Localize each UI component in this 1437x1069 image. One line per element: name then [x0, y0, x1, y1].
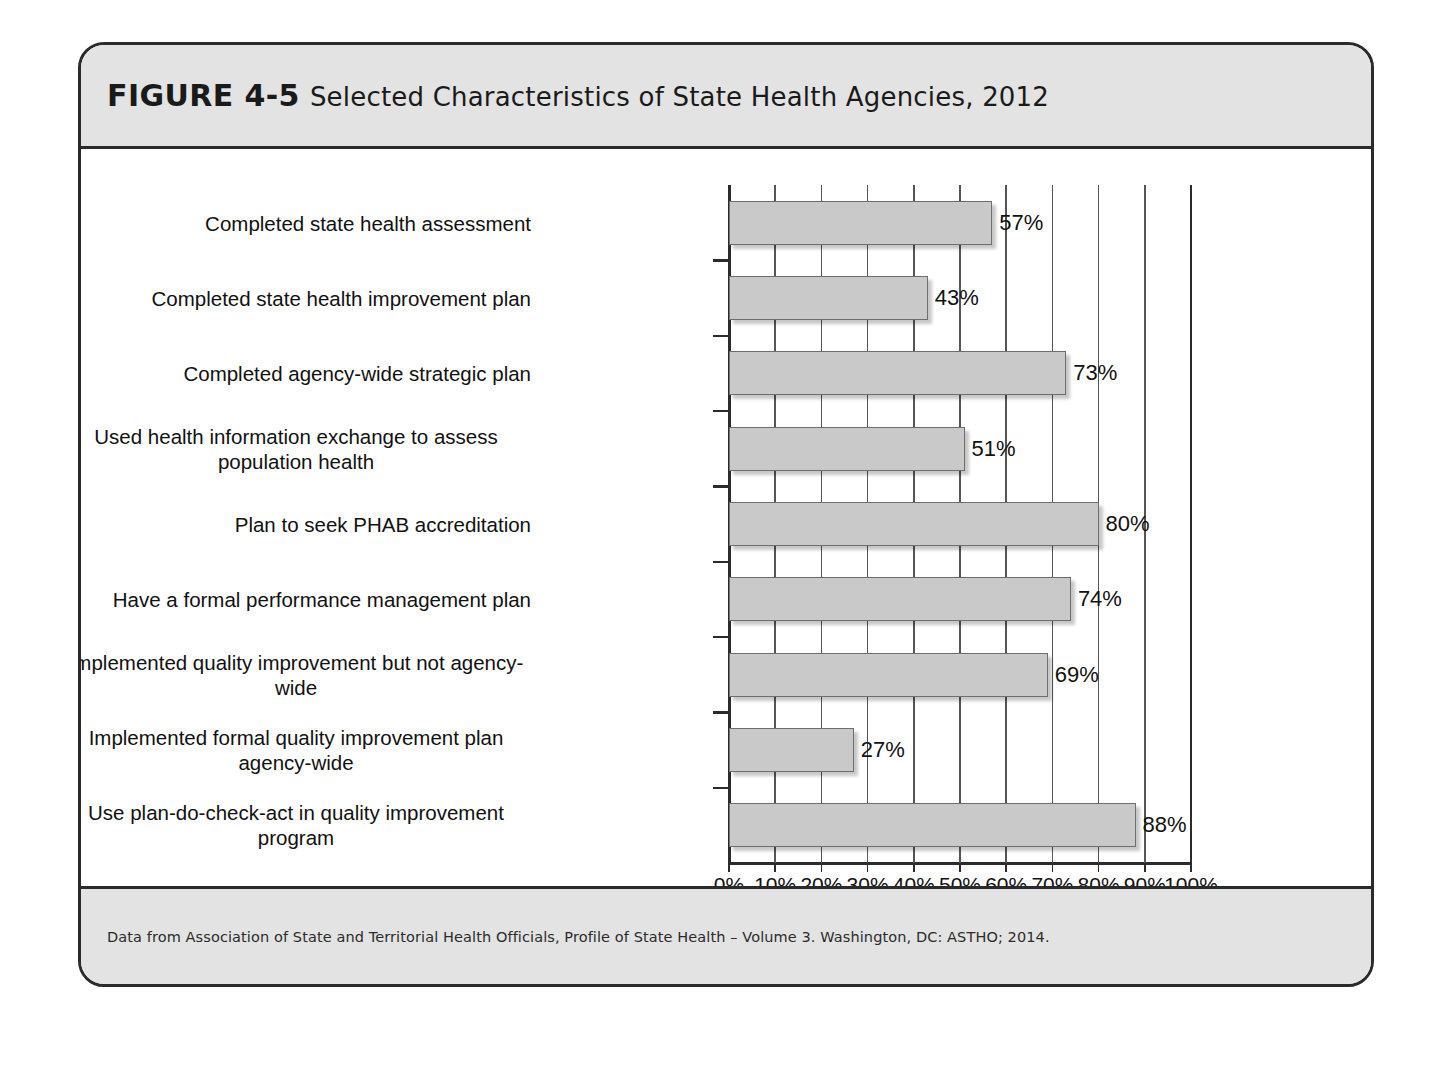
category-label-line: Use plan-do-check-act in quality improve… [78, 800, 531, 825]
x-axis-tick [959, 863, 961, 872]
x-axis-tick [1005, 863, 1007, 872]
category-label: Plan to seek PHAB accreditation [78, 512, 531, 537]
y-axis-tick [713, 335, 728, 337]
figure-number: FIGURE 4-5 [107, 78, 300, 113]
bar-value-label: 27% [854, 737, 905, 763]
bar-value-label: 57% [992, 210, 1043, 236]
bar[interactable] [729, 577, 1071, 621]
figure-header: FIGURE 4-5Selected Characteristics of St… [81, 45, 1371, 149]
category-label-line: program [78, 825, 531, 850]
bar-value-label: 74% [1071, 586, 1122, 612]
x-axis-tick [1052, 863, 1054, 872]
bar[interactable] [729, 201, 992, 245]
category-label-line: Implemented quality improvement but not … [78, 650, 531, 675]
bar-row: 27% [729, 728, 1191, 772]
category-label-line: Completed agency-wide strategic plan [78, 361, 531, 386]
category-label: Used health information exchange to asse… [78, 424, 531, 474]
category-label-line: Used health information exchange to asse… [78, 424, 531, 449]
category-label-line: wide [78, 675, 531, 700]
category-label-line: Implemented formal quality improvement p… [78, 725, 531, 750]
category-label: Implemented quality improvement but not … [78, 650, 531, 700]
category-label-line: Completed state health improvement plan [78, 286, 531, 311]
bar-value-label: 43% [928, 285, 979, 311]
category-label: Have a formal performance management pla… [78, 587, 531, 612]
category-label-line: Completed state health assessment [78, 210, 531, 235]
page-title: FIGURE 4-5Selected Characteristics of St… [107, 78, 1049, 113]
bar-value-label: 80% [1099, 511, 1150, 537]
category-label: Completed state health improvement plan [78, 286, 531, 311]
category-label: Completed state health assessment [78, 210, 531, 235]
figure-container: FIGURE 4-5Selected Characteristics of St… [78, 42, 1374, 987]
category-label: Implemented formal quality improvement p… [78, 725, 531, 775]
y-axis-tick [713, 259, 728, 261]
bar[interactable] [729, 276, 928, 320]
x-axis-tick [913, 863, 915, 872]
source-note: Data from Association of State and Terri… [107, 929, 1050, 945]
bar-row: 69% [729, 653, 1191, 697]
x-axis-tick [821, 863, 823, 872]
x-axis-tick [1190, 863, 1192, 872]
y-axis-tick [713, 410, 728, 412]
bar-row: 51% [729, 427, 1191, 471]
x-axis-tick [867, 863, 869, 872]
bar[interactable] [729, 803, 1136, 847]
bar-row: 73% [729, 351, 1191, 395]
x-axis-tick [1098, 863, 1100, 872]
bar-row: 80% [729, 502, 1191, 546]
category-label-line: agency-wide [78, 750, 531, 775]
category-label-line: Plan to seek PHAB accreditation [78, 512, 531, 537]
y-axis-tick [713, 485, 728, 487]
figure-title-text: Selected Characteristics of State Health… [310, 82, 1049, 112]
bar-value-label: 69% [1048, 662, 1099, 688]
category-label: Use plan-do-check-act in quality improve… [78, 800, 531, 850]
x-axis-tick [1144, 863, 1146, 872]
x-axis-tick [728, 863, 730, 872]
bar-row: 57% [729, 201, 1191, 245]
y-axis-tick [713, 711, 728, 713]
y-axis-tick [713, 787, 728, 789]
bar-chart: 0%10%20%30%40%50%60%70%80%90%100%57%Comp… [729, 185, 1191, 863]
category-label-line: Have a formal performance management pla… [78, 587, 531, 612]
chart-plot-area: 0%10%20%30%40%50%60%70%80%90%100%57%Comp… [81, 149, 1374, 889]
bar-value-label: 73% [1066, 360, 1117, 386]
bar[interactable] [729, 653, 1048, 697]
bar-value-label: 88% [1136, 812, 1187, 838]
bar-row: 43% [729, 276, 1191, 320]
y-axis-tick [713, 636, 728, 638]
x-axis-tick [774, 863, 776, 872]
bar-value-label: 51% [965, 436, 1016, 462]
bar[interactable] [729, 728, 854, 772]
bar[interactable] [729, 502, 1099, 546]
category-label-line: population health [78, 449, 531, 474]
y-axis-tick [713, 561, 728, 563]
category-label: Completed agency-wide strategic plan [78, 361, 531, 386]
bar[interactable] [729, 351, 1066, 395]
bar-row: 88% [729, 803, 1191, 847]
bar-row: 74% [729, 577, 1191, 621]
figure-footer: Data from Association of State and Terri… [81, 886, 1371, 984]
bar[interactable] [729, 427, 965, 471]
